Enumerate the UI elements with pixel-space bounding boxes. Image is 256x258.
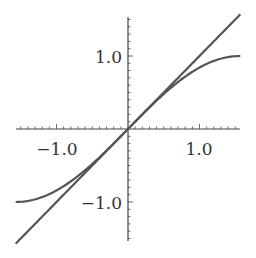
x-tick-label-1: 1.0 (185, 139, 212, 159)
y-tick-label-1: 1.0 (95, 47, 122, 67)
y-tick-label-neg1: −1.0 (81, 193, 122, 213)
function-plot: −1.0 1.0 1.0 −1.0 (0, 0, 256, 258)
tick-labels: −1.0 1.0 1.0 −1.0 (36, 47, 212, 213)
x-tick-label-neg1: −1.0 (36, 139, 77, 159)
